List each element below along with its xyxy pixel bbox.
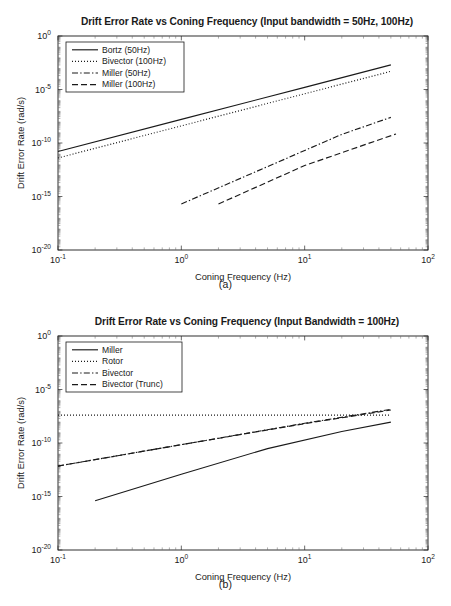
legend-label-0: Miller: [102, 345, 123, 355]
y-tick-label: 10-10: [31, 136, 51, 148]
legend-label-0: Bortz (50Hz): [102, 45, 150, 55]
series-line-0: [95, 422, 391, 501]
y-tick-label: 10-5: [35, 383, 51, 395]
x-tick-label: 101: [298, 253, 312, 265]
x-tick-label: 100: [174, 253, 188, 265]
chart-title: Drift Error Rate vs Coning Frequency (In…: [81, 16, 413, 27]
y-tick-label: 10-5: [35, 83, 51, 95]
y-tick-label: 10-10: [31, 436, 51, 448]
y-tick-label: 100: [37, 329, 51, 341]
x-tick-label: 102: [421, 253, 435, 265]
y-tick-label: 10-20: [31, 543, 51, 555]
legend-label-2: Miller (50Hz): [102, 68, 151, 78]
series-line-3: [58, 410, 391, 466]
caption-b: (b): [0, 578, 451, 590]
legend-label-3: Bivector (Trunc): [102, 379, 163, 389]
y-tick-label: 10-15: [31, 190, 51, 202]
chart-title: Drift Error Rate vs Coning Frequency (In…: [95, 316, 399, 327]
chart-a-canvas: Drift Error Rate vs Coning Frequency (In…: [0, 0, 451, 300]
chart-panel-b: Drift Error Rate vs Coning Frequency (In…: [0, 300, 451, 606]
caption-a: (a): [0, 278, 451, 290]
y-tick-label: 100: [37, 29, 51, 41]
chart-panel-a: Drift Error Rate vs Coning Frequency (In…: [0, 0, 451, 300]
legend-label-1: Rotor: [102, 356, 123, 366]
x-tick-label: 100: [174, 553, 188, 565]
x-tick-label: 10-1: [50, 553, 66, 565]
y-axis-label: Drift Error Rate (rad/s): [16, 397, 26, 489]
x-tick-label: 102: [421, 553, 435, 565]
legend-label-2: Bivector: [102, 368, 133, 378]
y-tick-label: 10-15: [31, 490, 51, 502]
legend-label-3: Miller (100Hz): [102, 79, 156, 89]
figure-container: Drift Error Rate vs Coning Frequency (In…: [0, 0, 451, 606]
series-line-3: [218, 134, 396, 204]
series-line-2: [181, 117, 391, 204]
y-tick-label: 10-20: [31, 243, 51, 255]
x-tick-label: 101: [298, 553, 312, 565]
x-tick-label: 10-1: [50, 253, 66, 265]
chart-b-canvas: Drift Error Rate vs Coning Frequency (In…: [0, 300, 451, 606]
legend-label-1: Bivector (100Hz): [102, 56, 166, 66]
y-axis-label: Drift Error Rate (rad/s): [16, 97, 26, 189]
